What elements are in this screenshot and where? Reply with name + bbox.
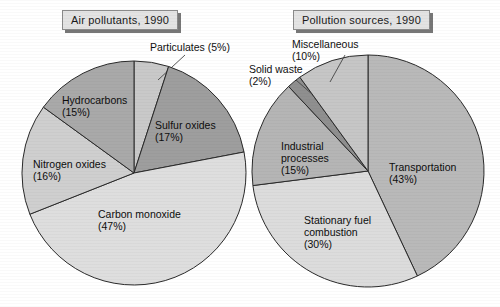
- slice-label-name: Stationary fuel combustion: [304, 214, 371, 238]
- slice-label-name: Hydrocarbons: [62, 94, 127, 106]
- slice-label-miscellaneous: Miscellaneous(10%): [292, 38, 359, 62]
- slice-label-line: (10%): [292, 50, 359, 62]
- slice-label-name: Nitrogen oxides: [33, 158, 106, 170]
- slice-label-value: (43%): [389, 173, 417, 185]
- slice-label-name: Particulates: [150, 41, 205, 53]
- slice-label-value: (47%): [98, 220, 126, 232]
- slice-label-hydrocarbons: Hydrocarbons(15%): [62, 94, 127, 118]
- slice-label-line: Sulfur oxides: [155, 119, 216, 131]
- pie-charts-canvas: [0, 0, 500, 307]
- slice-label-value: (15%): [62, 106, 90, 118]
- slice-label-name: Solid waste: [249, 63, 303, 75]
- figure-root: Air pollutants, 1990 Pollution sources, …: [0, 0, 500, 307]
- slice-label-value: (2%): [249, 75, 271, 87]
- slice-label-transportation: Transportation(43%): [389, 161, 456, 185]
- slice-label-value: (5%): [208, 41, 230, 53]
- slice-label-solid-waste: Solid waste(2%): [249, 63, 303, 87]
- slice-label-value: (10%): [292, 50, 320, 62]
- slice-label-value: (16%): [33, 170, 61, 182]
- slice-label-line: Solid waste: [249, 63, 303, 75]
- slice-label-line: (47%): [98, 220, 181, 232]
- slice-label-line: (2%): [249, 75, 303, 87]
- slice-label-line: Stationary fuel combustion: [304, 214, 382, 238]
- slice-label-name: Transportation: [389, 161, 456, 173]
- slice-label-stationary-fuel-combustion: Stationary fuel combustion(30%): [304, 214, 382, 250]
- slice-label-value: (17%): [155, 131, 183, 143]
- slice-label-sulfur-oxides: Sulfur oxides(17%): [155, 119, 216, 143]
- slice-label-line: (30%): [304, 238, 382, 250]
- slice-label-carbon-monoxide: Carbon monoxide(47%): [98, 208, 181, 232]
- slice-label-line: Carbon monoxide: [98, 208, 181, 220]
- slice-label-line: (43%): [389, 173, 456, 185]
- slice-label-name: Miscellaneous: [292, 38, 359, 50]
- slice-label-industrial-processes: Industrial processes(15%): [281, 140, 339, 176]
- slice-label-value: (30%): [304, 238, 332, 250]
- slice-label-line: Nitrogen oxides: [33, 158, 106, 170]
- slice-label-line: Hydrocarbons: [62, 94, 127, 106]
- slice-label-line: Industrial processes: [281, 140, 339, 164]
- slice-label-name: Sulfur oxides: [155, 119, 216, 131]
- slice-label-line: (16%): [33, 170, 106, 182]
- slice-label-line: Miscellaneous: [292, 38, 359, 50]
- slice-label-value: (15%): [281, 164, 309, 176]
- slice-label-line: (17%): [155, 131, 216, 143]
- slice-label-line: (15%): [62, 106, 127, 118]
- slice-label-line: Transportation: [389, 161, 456, 173]
- slice-label-particulates: Particulates (5%): [150, 41, 230, 53]
- slice-label-name: Industrial processes: [281, 140, 329, 164]
- slice-label-name: Carbon monoxide: [98, 208, 181, 220]
- slice-label-line: (15%): [281, 164, 339, 176]
- slice-label-nitrogen-oxides: Nitrogen oxides(16%): [33, 158, 106, 182]
